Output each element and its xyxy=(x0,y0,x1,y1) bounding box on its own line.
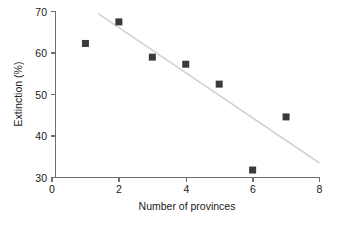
y-axis-title: Extinction (%) xyxy=(12,62,24,127)
y-tick-label-50: 50 xyxy=(35,89,47,101)
data-point-marker xyxy=(82,40,89,47)
x-tick-label-0: 0 xyxy=(49,183,55,195)
y-axis-tick-labels: 70 60 50 40 30 xyxy=(35,6,47,184)
x-tick-label-4: 4 xyxy=(184,183,190,195)
data-point-marker xyxy=(149,54,156,61)
scatter-plot-svg: 70 60 50 40 30 0 2 4 6 8 Number of provi… xyxy=(0,0,341,225)
x-axis-title: Number of provinces xyxy=(139,200,236,212)
y-tick-label-40: 40 xyxy=(35,130,47,142)
trend-line xyxy=(98,14,319,163)
x-axis-tick-labels: 0 2 4 6 8 xyxy=(49,183,323,195)
data-point-marker xyxy=(283,113,290,120)
y-axis-ticks xyxy=(51,12,56,178)
x-tick-label-2: 2 xyxy=(116,183,122,195)
x-tick-label-6: 6 xyxy=(250,183,256,195)
data-point-group xyxy=(82,18,290,173)
y-tick-label-70: 70 xyxy=(35,6,47,18)
data-point-marker xyxy=(182,61,189,68)
data-point-marker xyxy=(249,167,256,174)
data-point-marker xyxy=(216,81,223,88)
chart-figure: 70 60 50 40 30 0 2 4 6 8 Number of provi… xyxy=(0,0,341,225)
data-point-marker xyxy=(115,18,122,25)
x-axis-ticks xyxy=(52,178,320,183)
y-tick-label-30: 30 xyxy=(35,172,47,184)
y-tick-label-60: 60 xyxy=(35,47,47,59)
x-tick-label-8: 8 xyxy=(317,183,323,195)
